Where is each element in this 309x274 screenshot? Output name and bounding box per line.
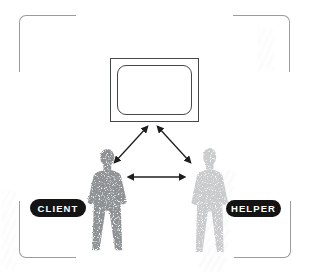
client-label: CLIENT	[30, 199, 86, 217]
helper-label-text: HELPER	[231, 203, 276, 214]
arrow-tv-helper	[158, 127, 190, 162]
communication-arrows	[0, 0, 309, 274]
client-figure	[83, 149, 130, 254]
person-silhouette-icon	[88, 149, 127, 250]
person-silhouette-icon	[191, 148, 228, 252]
helper-figure	[187, 148, 231, 256]
helper-label: HELPER	[226, 200, 281, 217]
client-label-text: CLIENT	[38, 203, 79, 214]
diagram-canvas: CLIENT HELPER	[0, 0, 309, 274]
